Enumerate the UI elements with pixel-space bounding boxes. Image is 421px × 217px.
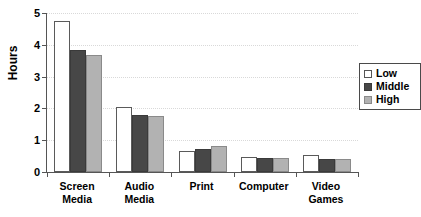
y-tick-label: 4: [34, 39, 40, 50]
bar-group: [234, 13, 296, 172]
x-axis-label: Video Games: [295, 180, 357, 206]
bar-low: [303, 155, 319, 172]
plot-area: 012345: [46, 13, 358, 173]
y-axis-title: Hours: [6, 28, 20, 98]
legend-label-high: High: [376, 94, 399, 105]
bar-middle: [195, 149, 211, 172]
x-tick: [358, 172, 359, 177]
bar-high: [86, 55, 102, 172]
legend-label-middle: Middle: [376, 81, 409, 92]
x-axis-label: Screen Media: [46, 180, 108, 206]
bar-high: [148, 116, 164, 172]
bar-group: [109, 13, 171, 172]
bar-high: [211, 146, 227, 172]
bar-low: [54, 21, 70, 172]
x-tick: [109, 172, 110, 177]
bar-low: [241, 157, 257, 172]
bar-middle: [70, 50, 86, 172]
legend-item-middle: Middle: [364, 80, 416, 93]
legend-swatch-middle-icon: [364, 83, 372, 91]
legend-swatch-low-icon: [364, 70, 372, 78]
x-axis-labels: Screen MediaAudio MediaPrintComputerVide…: [46, 180, 357, 206]
y-tick-label: 0: [34, 167, 40, 178]
x-tick: [296, 172, 297, 177]
x-tick: [171, 172, 172, 177]
x-tick: [234, 172, 235, 177]
x-tick: [47, 172, 48, 177]
bar-low: [179, 151, 195, 172]
y-tick-label: 1: [34, 135, 40, 146]
bar-groups: [47, 13, 358, 172]
bar-group: [296, 13, 358, 172]
legend-item-low: Low: [364, 67, 416, 80]
bar-low: [116, 107, 132, 172]
bar-group: [47, 13, 109, 172]
bar-high: [335, 159, 351, 172]
legend: Low Middle High: [359, 63, 421, 110]
legend-swatch-high-icon: [364, 96, 372, 104]
legend-label-low: Low: [376, 68, 397, 79]
x-axis-label: Audio Media: [108, 180, 170, 206]
bar-group: [171, 13, 233, 172]
bar-middle: [319, 159, 335, 172]
bar-middle: [257, 158, 273, 172]
y-tick-label: 3: [34, 71, 40, 82]
legend-item-high: High: [364, 93, 416, 106]
bar-middle: [132, 115, 148, 172]
x-axis-label: Print: [170, 180, 232, 206]
x-axis-label: Computer: [233, 180, 295, 206]
y-tick-label: 5: [34, 8, 40, 19]
y-tick-label: 2: [34, 103, 40, 114]
bar-high: [273, 158, 289, 172]
